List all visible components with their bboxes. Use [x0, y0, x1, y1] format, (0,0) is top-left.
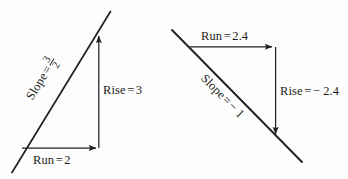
right-run-value: 2.4: [232, 29, 248, 43]
left-rise-equals: =: [126, 83, 136, 97]
left-run-value: 2: [64, 153, 70, 167]
right-run-equals: =: [222, 29, 232, 43]
left-run-label-text: Run: [33, 153, 54, 167]
left-run-label: Run=2: [33, 154, 71, 167]
left-rise-label: Rise=3: [103, 84, 142, 97]
right-rise-equals: =: [303, 84, 313, 98]
right-run-label-text: Run: [201, 29, 222, 43]
right-run-label: Run=2.4: [201, 30, 248, 43]
left-rise-label-text: Rise: [103, 83, 126, 97]
slope-figure: Slope=32 Rise=3 Run=2 Slope=− 1 Run=2.4 …: [0, 0, 348, 179]
right-rise-value: − 2.4: [313, 84, 339, 98]
right-rise-label: Rise=− 2.4: [280, 85, 339, 98]
left-run-equals: =: [54, 153, 64, 167]
right-rise-label-text: Rise: [280, 84, 303, 98]
left-rise-value: 3: [136, 83, 142, 97]
